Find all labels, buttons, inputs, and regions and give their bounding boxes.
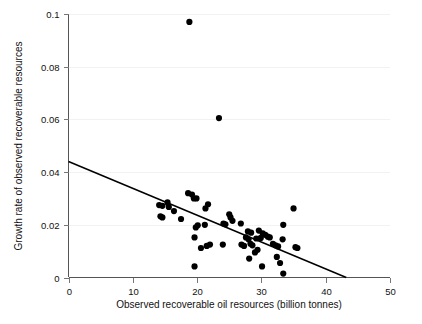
data-point	[159, 203, 165, 209]
data-point	[229, 218, 235, 224]
axis-lines	[69, 14, 391, 278]
y-axis-ticks	[64, 15, 69, 279]
data-point	[249, 242, 255, 248]
data-point	[198, 245, 204, 251]
x-tick-label-50: 50	[385, 286, 396, 297]
data-point	[280, 222, 286, 228]
data-point	[252, 249, 258, 255]
regression-trend-line	[69, 162, 347, 278]
data-point	[277, 260, 283, 266]
chart-canvas: 01020304050 00.020.040.060.080.1 Observe…	[0, 0, 422, 324]
x-tick-label-40: 40	[321, 286, 332, 297]
y-axis-title: Growth rate of observed recoverable reso…	[13, 42, 24, 251]
scatter-plot-figure: 01020304050 00.020.040.060.080.1 Observe…	[0, 0, 422, 324]
data-point	[238, 220, 244, 226]
y-tick-label-0.02: 0.02	[41, 220, 60, 231]
data-point	[193, 224, 199, 230]
data-point	[191, 234, 197, 240]
data-point	[186, 19, 192, 25]
data-point	[220, 241, 226, 247]
data-point	[248, 230, 254, 236]
y-tick-label-0.06: 0.06	[41, 114, 60, 125]
data-point	[275, 243, 281, 249]
data-point	[166, 204, 172, 210]
data-point	[259, 263, 265, 269]
data-point-group	[156, 19, 300, 277]
x-axis-ticks	[70, 278, 391, 283]
x-axis-tick-labels: 01020304050	[67, 286, 396, 297]
data-point	[280, 236, 286, 242]
data-point	[171, 208, 177, 214]
data-point	[294, 245, 300, 251]
x-tick-label-10: 10	[128, 286, 139, 297]
data-point	[222, 221, 228, 227]
data-point	[274, 254, 280, 260]
x-tick-label-30: 30	[256, 286, 267, 297]
data-point	[202, 205, 208, 211]
data-point	[241, 243, 247, 249]
y-tick-label-0.08: 0.08	[41, 62, 60, 73]
trend-line-group	[69, 162, 347, 278]
data-point	[258, 235, 264, 241]
y-tick-label-0: 0	[54, 273, 59, 284]
data-point	[267, 234, 273, 240]
data-point	[191, 263, 197, 269]
y-tick-label-0.04: 0.04	[41, 167, 60, 178]
x-tick-label-20: 20	[192, 286, 203, 297]
x-axis-title: Observed recoverable oil resources (bill…	[116, 299, 342, 310]
data-point	[204, 243, 210, 249]
y-tick-label-0.1: 0.1	[46, 9, 59, 20]
data-point	[216, 115, 222, 121]
data-point	[202, 222, 208, 228]
data-point	[280, 270, 286, 276]
data-point	[290, 205, 296, 211]
y-axis-tick-labels: 00.020.040.060.080.1	[41, 9, 60, 284]
data-point	[159, 214, 165, 220]
grid-lines	[69, 15, 391, 226]
x-tick-label-0: 0	[67, 286, 72, 297]
data-point	[178, 216, 184, 222]
data-point	[246, 255, 252, 261]
data-point	[193, 195, 199, 201]
